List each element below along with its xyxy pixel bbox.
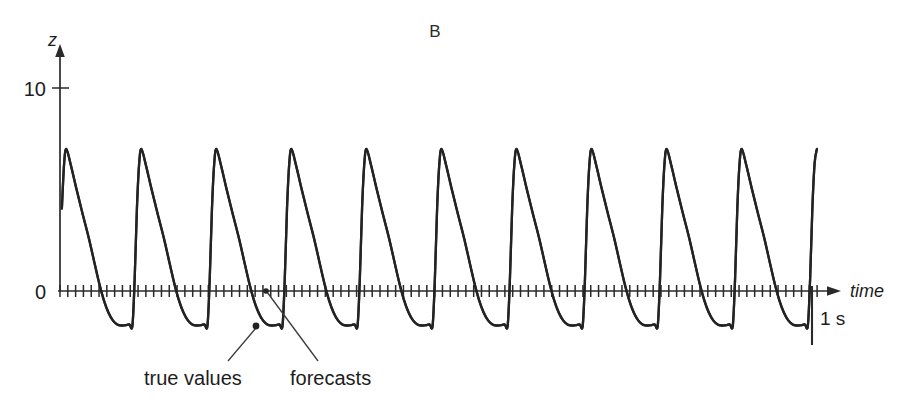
annotation-true-values: true values [144, 323, 259, 389]
series-true-values [62, 149, 817, 329]
page-title: B [429, 22, 440, 41]
y-axis-tick-label-10: 10 [24, 78, 46, 100]
x-axis-arrowhead [827, 286, 841, 296]
x-axis-label: time [850, 281, 884, 301]
data-trace-group [62, 149, 817, 329]
y-axis-tick-label-0: 0 [35, 281, 46, 303]
true-values-marker-dot [253, 323, 260, 330]
y-axis: 10 0 z [24, 30, 69, 303]
forecasts-label: forecasts [290, 367, 371, 389]
true-values-label: true values [144, 367, 242, 389]
scalebar-label: 1 s [820, 308, 845, 329]
annotation-forecasts: forecasts [263, 288, 371, 389]
figure-panel: B 10 0 z time 1 s [0, 0, 909, 407]
x-axis: time [58, 281, 884, 301]
y-axis-label: z [47, 30, 57, 50]
chart-canvas: B 10 0 z time 1 s [0, 0, 909, 407]
true-values-leader-line [228, 328, 256, 361]
forecasts-marker-dot [263, 288, 269, 294]
